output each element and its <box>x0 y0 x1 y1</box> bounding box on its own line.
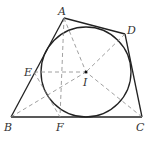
label-a: A <box>57 5 66 18</box>
edge-cd <box>125 34 142 117</box>
label-b: B <box>3 121 12 134</box>
center-point-i <box>85 71 88 74</box>
label-c: C <box>136 121 145 134</box>
geometry-diagram: A D E I B F C <box>0 0 158 143</box>
edge-ab <box>11 18 64 117</box>
label-e: E <box>23 66 32 79</box>
label-i: I <box>82 76 88 89</box>
segment-ai <box>64 18 86 72</box>
label-f: F <box>55 121 64 134</box>
label-d: D <box>126 24 136 37</box>
segment-bi <box>11 72 86 117</box>
segment-di <box>86 34 125 72</box>
segment-af <box>60 18 64 117</box>
edge-da <box>64 18 125 34</box>
